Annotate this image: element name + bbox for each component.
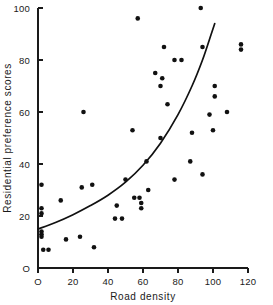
x-tick-label-100: 100: [205, 276, 221, 287]
x-tick-label-20: 20: [68, 276, 79, 287]
data-point: [139, 201, 144, 206]
data-point: [130, 128, 135, 133]
data-point: [90, 183, 95, 188]
data-point: [158, 136, 163, 141]
data-point: [153, 71, 158, 76]
data-point: [200, 172, 205, 177]
data-point: [81, 110, 86, 115]
data-point: [212, 84, 217, 89]
data-point: [132, 196, 137, 201]
data-point: [211, 128, 216, 133]
data-point: [200, 45, 205, 50]
y-axis-title: Residential preference scores: [2, 63, 13, 213]
data-point: [144, 159, 149, 164]
data-point: [190, 131, 195, 136]
data-point: [92, 245, 97, 250]
data-point: [165, 102, 170, 107]
data-point: [239, 42, 244, 47]
data-point: [46, 248, 51, 253]
axis-lines: [38, 8, 248, 268]
data-point: [39, 211, 44, 216]
data-point: [160, 76, 165, 81]
data-point: [198, 6, 203, 11]
data-point: [158, 84, 163, 89]
data-point: [225, 110, 230, 115]
x-tick-label-0: O: [34, 276, 42, 287]
data-point: [146, 188, 151, 193]
data-point: [179, 58, 184, 63]
data-point: [188, 159, 193, 164]
scatter-plot-figure: O20406080100120O20406080100Road densityR…: [0, 0, 273, 305]
x-tick-label-40: 40: [103, 276, 114, 287]
data-point: [137, 196, 142, 201]
y-tick-label-60: 60: [19, 107, 30, 118]
regression-curve: [38, 24, 215, 229]
data-point: [78, 235, 83, 240]
y-tick-label-20: 20: [19, 211, 30, 222]
x-tick-label-80: 80: [173, 276, 184, 287]
data-point: [39, 206, 44, 211]
data-point: [139, 206, 144, 211]
data-point: [39, 183, 44, 188]
data-point: [239, 47, 244, 52]
x-axis-title: Road density: [110, 291, 176, 302]
data-point: [114, 203, 119, 208]
data-point: [113, 216, 118, 221]
y-tick-label-80: 80: [19, 55, 30, 66]
data-point: [207, 112, 212, 117]
chart-canvas: O20406080100120O20406080100Road densityR…: [0, 0, 273, 305]
data-point: [162, 45, 167, 50]
data-point: [212, 94, 217, 99]
x-tick-label-120: 120: [240, 276, 256, 287]
x-tick-label-60: 60: [138, 276, 149, 287]
y-tick-label-100: 100: [14, 3, 30, 14]
y-tick-label-0: O: [22, 263, 30, 274]
data-point: [41, 248, 46, 253]
y-tick-label-40: 40: [19, 159, 30, 170]
data-point: [39, 235, 44, 240]
data-point: [172, 177, 177, 182]
data-point: [64, 237, 69, 242]
data-point: [120, 216, 125, 221]
data-point: [123, 177, 128, 182]
data-point: [135, 16, 140, 21]
data-point: [172, 58, 177, 63]
data-point: [58, 198, 63, 203]
data-point: [79, 185, 84, 190]
